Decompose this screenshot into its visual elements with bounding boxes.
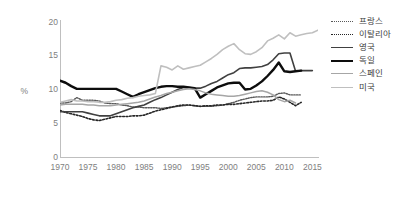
legend-label: 영국 (359, 42, 375, 52)
x-axis-tick-label: 1980 (107, 163, 126, 172)
legend-label: 독일 (359, 55, 375, 65)
legend-line-swatch (331, 68, 353, 78)
legend-line-swatch (331, 82, 353, 92)
series-line (60, 30, 318, 102)
legend-line-swatch (331, 42, 353, 52)
legend-item[interactable]: 이탈리아 (331, 27, 413, 40)
y-axis-tick-label: 5 (20, 119, 58, 128)
chart-legend: 프랑스이탈리아영국독일스페인미국 (331, 14, 413, 93)
y-axis-tick-label: 0 (20, 153, 58, 162)
x-axis-tick-label: 1985 (135, 163, 154, 172)
plot-area (60, 22, 318, 157)
y-axis-tick-label: 15 (20, 51, 58, 60)
x-axis-tick-label: 1995 (191, 163, 210, 172)
x-axis-tick-label: 1975 (79, 163, 98, 172)
legend-line-swatch (331, 55, 353, 65)
series-line (60, 53, 312, 116)
legend-item[interactable]: 독일 (331, 54, 413, 67)
x-axis-tick-label: 2005 (247, 163, 266, 172)
x-axis-tick-label: 2000 (219, 163, 238, 172)
x-axis-tick-label: 1990 (163, 163, 182, 172)
x-axis-line (60, 157, 319, 158)
y-axis-tick-label: 10 (20, 85, 58, 94)
x-axis-tick-labels: 1970197519801985199019952000200520102015 (60, 163, 328, 177)
legend-line-swatch (331, 16, 353, 26)
legend-label: 이탈리아 (359, 29, 391, 39)
series-lines (60, 22, 318, 157)
legend-item[interactable]: 스페인 (331, 67, 413, 80)
legend-label: 프랑스 (359, 16, 383, 26)
legend-item[interactable]: 영국 (331, 40, 413, 53)
y-axis-tick-label: 20 (20, 18, 58, 27)
x-axis-tick-label: 1970 (51, 163, 70, 172)
x-axis-tick-label: 2010 (275, 163, 294, 172)
legend-label: 미국 (359, 82, 375, 92)
chart-container: % 05101520 19701975198019851990199520002… (0, 0, 414, 198)
x-axis-tick-label: 2015 (303, 163, 322, 172)
legend-line-swatch (331, 29, 353, 39)
legend-item[interactable]: 미국 (331, 80, 413, 93)
legend-item[interactable]: 프랑스 (331, 14, 413, 27)
legend-label: 스페인 (359, 68, 383, 78)
